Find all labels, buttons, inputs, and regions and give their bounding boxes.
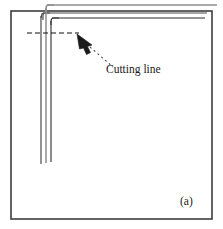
panel-label: (a)	[180, 196, 193, 208]
cutting-line-label: Cutting line	[106, 64, 161, 76]
figure-panel-a: Cutting line (a)	[0, 0, 223, 229]
